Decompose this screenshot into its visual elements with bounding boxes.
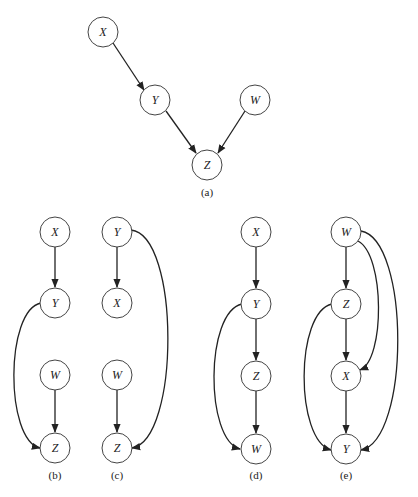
svg-text:X: X xyxy=(98,25,107,39)
node-x: X xyxy=(40,217,70,247)
node-y: Y xyxy=(331,434,361,464)
svg-text:Z: Z xyxy=(52,441,59,455)
panel-b: X Y W Z (b) xyxy=(14,217,70,482)
node-w: W xyxy=(40,360,70,390)
panel-a: X Y W Z (a) xyxy=(88,17,270,199)
node-w: W xyxy=(241,434,271,464)
caption-e: (e) xyxy=(340,469,353,482)
caption-d: (d) xyxy=(250,469,263,482)
node-x: X xyxy=(88,17,118,47)
edge-y-z xyxy=(14,303,41,448)
node-w: W xyxy=(240,85,270,115)
node-x: X xyxy=(102,288,132,318)
node-z: Z xyxy=(102,433,132,463)
edge-y-w xyxy=(214,304,242,449)
edge-y-z xyxy=(166,111,196,153)
svg-text:Z: Z xyxy=(114,441,121,455)
svg-text:X: X xyxy=(251,225,260,239)
node-z: Z xyxy=(331,289,361,319)
panel-c: Y X W Z (c) xyxy=(102,217,168,482)
node-z: Z xyxy=(192,150,222,180)
caption-b: (b) xyxy=(49,469,62,482)
panel-e: W Z X Y (e) xyxy=(304,217,398,482)
edge-x-y xyxy=(113,43,144,90)
node-x: X xyxy=(241,217,271,247)
caption-a: (a) xyxy=(201,186,214,199)
node-w: W xyxy=(331,217,361,247)
svg-text:W: W xyxy=(251,442,262,456)
diagram-canvas: X Y W Z (a) X Y W Z (b) Y X W Z (c) X Y … xyxy=(0,0,418,497)
edge-y-z xyxy=(131,230,168,448)
edge-z-y xyxy=(304,304,332,450)
svg-text:X: X xyxy=(50,225,59,239)
svg-text:Z: Z xyxy=(204,158,211,172)
svg-text:X: X xyxy=(112,296,121,310)
svg-text:W: W xyxy=(112,368,123,382)
node-y: Y xyxy=(241,289,271,319)
node-y: Y xyxy=(40,288,70,318)
node-z: Z xyxy=(40,433,70,463)
node-y: Y xyxy=(140,85,170,115)
svg-text:Z: Z xyxy=(343,297,350,311)
edge-w-y xyxy=(361,231,398,450)
svg-text:W: W xyxy=(50,368,61,382)
svg-text:X: X xyxy=(341,369,350,383)
panel-d: X Y Z W (d) xyxy=(214,217,271,482)
node-y: Y xyxy=(102,217,132,247)
node-x: X xyxy=(331,361,361,391)
edge-w-z xyxy=(218,111,245,153)
caption-c: (c) xyxy=(111,469,124,482)
svg-text:W: W xyxy=(250,93,261,107)
svg-text:W: W xyxy=(341,225,352,239)
svg-text:Z: Z xyxy=(253,369,260,383)
node-w: W xyxy=(102,360,132,390)
node-z: Z xyxy=(241,361,271,391)
